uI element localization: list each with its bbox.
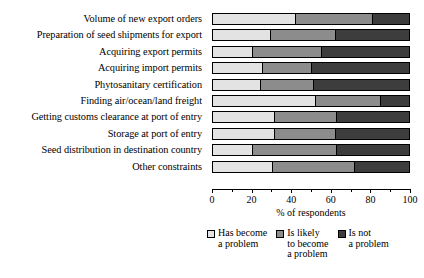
bar-segment: [213, 162, 272, 172]
category-label: Getting customs clearance at port of ent…: [0, 111, 202, 122]
x-minor-tick: [390, 189, 391, 192]
chart-legend: Has become a problemIs likely to become …: [207, 228, 419, 274]
x-axis-title: % of respondents: [212, 207, 410, 218]
bar-row: [212, 46, 410, 58]
bar-segment: [313, 80, 409, 90]
x-tick: [331, 189, 332, 193]
bar-segment: [336, 112, 409, 122]
x-tick: [410, 189, 411, 193]
bar-segment: [213, 129, 274, 139]
bar-segment: [272, 162, 354, 172]
legend-item: Is likely to become a problem: [276, 228, 328, 260]
bar-segment: [335, 30, 409, 40]
bar-segment: [213, 145, 252, 155]
bar-row: [212, 79, 410, 91]
bar-row: [212, 62, 410, 74]
legend-swatch-icon: [276, 230, 284, 238]
bar-segment: [335, 129, 409, 139]
bar-segment: [380, 96, 409, 106]
bar-segment: [213, 96, 315, 106]
bar-segment: [336, 145, 409, 155]
bar-segment: [213, 80, 260, 90]
legend-swatch-icon: [338, 230, 346, 238]
x-minor-tick: [351, 189, 352, 192]
x-tick-label: 20: [237, 194, 267, 205]
category-label: Volume of new export orders: [0, 13, 202, 24]
bar-segment: [274, 112, 337, 122]
bar-segment: [295, 14, 371, 24]
category-label: Other constraints: [0, 161, 202, 172]
category-label: Seed distribution in destination country: [0, 144, 202, 155]
bar-segment: [213, 14, 295, 24]
plot-area: [212, 12, 410, 178]
bar-segment: [321, 47, 409, 57]
x-minor-tick: [271, 189, 272, 192]
bar-segment: [213, 63, 262, 73]
x-tick: [291, 189, 292, 193]
category-axis-labels: Volume of new export ordersPreparation o…: [0, 12, 205, 178]
category-label: Phytosanitary certification: [0, 79, 202, 90]
bar-segment: [372, 14, 409, 24]
bar-segment: [311, 63, 409, 73]
bar-segment: [213, 47, 252, 57]
bar-row: [212, 128, 410, 140]
x-minor-tick: [232, 189, 233, 192]
stacked-bar-chart: Volume of new export ordersPreparation o…: [0, 0, 424, 278]
legend-label: Has become a problem: [218, 228, 267, 249]
bar-segment: [252, 145, 336, 155]
legend-label: Is likely to become a problem: [287, 228, 328, 260]
bar-segment: [274, 129, 335, 139]
bar-row: [212, 95, 410, 107]
legend-item: Is not a problem: [338, 228, 389, 249]
x-tick-label: 0: [197, 194, 227, 205]
bar-segment: [315, 96, 380, 106]
x-minor-tick: [311, 189, 312, 192]
bar-segment: [213, 30, 270, 40]
bar-segment: [354, 162, 409, 172]
bar-segment: [260, 80, 313, 90]
category-label: Finding air/ocean/land freight: [0, 95, 202, 106]
bar-row: [212, 161, 410, 173]
bar-row: [212, 13, 410, 25]
x-tick: [212, 189, 213, 193]
x-tick: [370, 189, 371, 193]
category-label: Storage at port of entry: [0, 128, 202, 139]
bar-segment: [252, 47, 321, 57]
bar-segment: [270, 30, 335, 40]
bar-row: [212, 111, 410, 123]
x-tick-label: 60: [316, 194, 346, 205]
category-label: Acquiring export permits: [0, 46, 202, 57]
bar-row: [212, 29, 410, 41]
x-tick: [252, 189, 253, 193]
bar-row: [212, 144, 410, 156]
category-label: Preparation of seed shipments for export: [0, 29, 202, 40]
x-tick-label: 100: [395, 194, 424, 205]
category-label: Acquiring import permits: [0, 62, 202, 73]
legend-item: Has become a problem: [207, 228, 267, 249]
legend-label: Is not a problem: [349, 228, 389, 249]
bar-segment: [262, 63, 311, 73]
x-tick-label: 40: [276, 194, 306, 205]
legend-swatch-icon: [207, 230, 215, 238]
x-tick-label: 80: [355, 194, 385, 205]
bar-segment: [213, 112, 274, 122]
